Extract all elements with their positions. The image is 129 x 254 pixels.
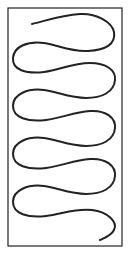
serpentine-diagram: [0, 0, 129, 254]
